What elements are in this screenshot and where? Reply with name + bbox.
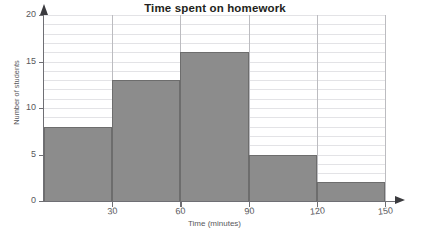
y-axis-arrow-icon: [40, 4, 48, 15]
gridline-horizontal: [44, 15, 385, 16]
gridline-horizontal: [44, 34, 385, 35]
histogram-bar: [249, 155, 317, 202]
gridline-vertical: [385, 15, 386, 201]
x-axis-tick-label: 90: [235, 205, 264, 218]
histogram-bar: [180, 52, 248, 201]
x-axis-tick-label: 120: [303, 205, 332, 218]
histogram-bar: [317, 182, 385, 201]
gridline-vertical: [317, 15, 318, 201]
histogram-bar: [112, 80, 180, 201]
chart-title: Time spent on homework: [0, 2, 430, 14]
gridline-horizontal: [44, 24, 385, 25]
y-axis-tick: [39, 201, 44, 202]
y-axis-tick: [39, 155, 44, 156]
histogram-figure: Time spent on homework Number of student…: [0, 0, 430, 233]
y-axis-tick: [39, 108, 44, 109]
y-axis-tick-label: 0: [20, 195, 36, 205]
x-axis-tick-label: 30: [98, 205, 127, 218]
histogram-bar: [44, 127, 112, 201]
gridline-horizontal: [44, 43, 385, 44]
y-axis-tick-label: 20: [20, 9, 36, 19]
y-axis-title: Number of students: [12, 33, 21, 153]
x-axis-line: [43, 201, 395, 202]
y-axis-tick-label: 10: [20, 102, 36, 112]
y-axis-tick-label: 15: [20, 56, 36, 66]
y-axis-tick: [39, 62, 44, 63]
x-axis-title: Time (minutes): [44, 219, 385, 228]
y-axis-tick-label: 5: [20, 149, 36, 159]
x-axis-arrow-icon: [395, 196, 405, 204]
plot-area: [44, 15, 385, 201]
y-axis-tick: [39, 15, 44, 16]
x-axis-tick-label: 150: [371, 205, 400, 218]
x-axis-tick-label: 60: [166, 205, 195, 218]
